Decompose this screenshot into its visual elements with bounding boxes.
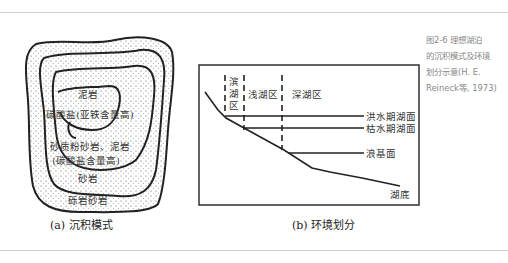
figure-caption: 图2-6 理想湖泊 的沉积模式及环境 划分示意(H. E. Reineck等, … — [426, 32, 508, 96]
label-conglomerate: 砾岩砂岩 — [68, 195, 108, 206]
zone-deep: 深湖区 — [292, 89, 322, 100]
level-bottom: 湖底 — [390, 189, 410, 200]
caption-line-2: 的沉积模式及环境 — [426, 48, 508, 64]
zone-shore-1: 滨 — [229, 76, 239, 87]
panel-b-caption: (b) 环境划分 — [292, 216, 355, 232]
label-mudstone: 泥岩 — [78, 89, 98, 100]
panel-b-environment-zones: 滨 湖 区 浅湖区 深湖区 洪水期湖面 枯水期湖面 浪基面 湖底 (b) 环境划… — [180, 0, 430, 263]
caption-line-3: 划分示意(H. E. — [426, 64, 508, 80]
level-flood: 洪水期湖面 — [366, 111, 416, 122]
label-carbonate-fe: 碳酸盐(亚铁含量高) — [46, 109, 133, 120]
label-carbonate-high: (碳酸盐含量高) — [52, 155, 119, 166]
label-sandstone: 砂岩 — [78, 173, 98, 184]
zone-shallow: 浅湖区 — [248, 89, 278, 100]
zone-shore-3: 区 — [229, 100, 239, 111]
panel-a-caption: (a) 沉积模式 — [50, 216, 113, 232]
caption-line-4: Reineck等, 1973) — [426, 80, 508, 96]
panel-a-depositional-model: 泥岩 碳酸盐(亚铁含量高) 砂质粉砂岩、泥岩 (碳酸盐含量高) 砂岩 砾岩砂岩 … — [0, 0, 180, 263]
level-wave-base: 浪基面 — [366, 148, 396, 159]
level-dry: 枯水期湖面 — [366, 123, 416, 134]
caption-line-1: 图2-6 理想湖泊 — [426, 32, 508, 48]
zone-shore-2: 湖 — [229, 88, 239, 99]
label-sandy-silt: 砂质粉砂岩、泥岩 — [50, 141, 130, 152]
